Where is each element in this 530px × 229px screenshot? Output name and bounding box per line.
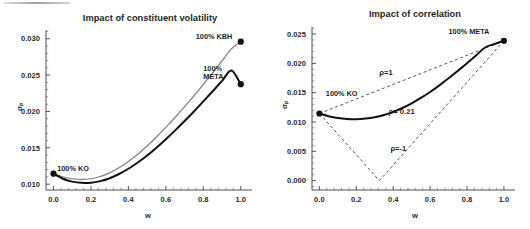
x-tick-label: 0.8 <box>462 195 473 204</box>
chart-title-right: Impact of correlation <box>369 9 461 19</box>
y-tick-label: 0.025 <box>21 71 41 80</box>
y-tick-label: 0.015 <box>21 144 41 153</box>
chart-panel-correlation: Impact of correlation 0.0000.0050.0100.0… <box>265 0 530 229</box>
y-tick-label: 0.005 <box>287 147 307 156</box>
chart-panel-constituent-volatility: Impact of constituent volatility 0.0100.… <box>0 0 265 229</box>
x-tick-label: 0.6 <box>161 195 172 204</box>
annotation-label: ρ=1 <box>379 68 393 77</box>
x-tick-label: 0.6 <box>425 195 436 204</box>
x-tick-label: 0.2 <box>351 195 362 204</box>
y-tick-label: 0.015 <box>287 88 307 97</box>
figure-container: Impact of constituent volatility 0.0100.… <box>0 0 530 229</box>
endpoint-marker <box>50 171 56 177</box>
y-tick-label: 0.030 <box>21 34 40 43</box>
endpoint-marker <box>238 39 244 45</box>
chart-svg-left: Impact of constituent volatility 0.0100.… <box>0 0 265 229</box>
x-tick-label: 1.0 <box>499 195 510 204</box>
endpoint-marker <box>501 38 507 44</box>
endpoint-marker <box>238 81 244 87</box>
x-tick-label: 0.4 <box>123 195 134 204</box>
annotation-label: META <box>203 72 224 81</box>
x-tick-labels-right: 0.00.20.40.60.81.0 <box>314 195 509 204</box>
y-tick-label: 0.010 <box>287 118 306 127</box>
chart-title-left: Impact of constituent volatility <box>83 13 218 23</box>
x-tick-label: 0.0 <box>314 195 325 204</box>
x-tick-label: 0.0 <box>48 195 59 204</box>
annotation-label: 100% KO <box>326 89 358 98</box>
x-tick-label: 0.2 <box>86 195 97 204</box>
y-tick-label: 0.020 <box>287 59 306 68</box>
chart-svg-right: Impact of correlation 0.0000.0050.0100.0… <box>265 0 530 229</box>
annotation-label: 100% KBH <box>196 32 233 41</box>
annotation-label: ρ= 0.21 <box>389 107 416 116</box>
x-tick-label: 1.0 <box>235 195 246 204</box>
data-series-ko-kbh-frontier <box>53 42 240 180</box>
x-axis-label-right: w <box>411 211 418 220</box>
y-axis-label-left: σₚ <box>15 102 24 111</box>
x-tick-label: 0.4 <box>388 195 399 204</box>
annotation-label: 100% META <box>449 27 491 36</box>
annotation-label: 100% KO <box>57 164 89 173</box>
y-tick-label: 0.000 <box>287 176 306 185</box>
x-tick-labels-left: 0.00.20.40.60.81.0 <box>48 195 246 204</box>
y-tick-labels-right: 0.0000.0050.0100.0150.0200.025 <box>287 30 307 186</box>
x-axis-label-left: w <box>144 211 151 220</box>
y-tick-label: 0.025 <box>287 30 307 39</box>
annotation-label: ρ=-1 <box>390 144 407 153</box>
endpoint-marker <box>316 110 322 116</box>
x-tick-label: 0.8 <box>198 195 209 204</box>
y-tick-label: 0.010 <box>21 180 40 189</box>
y-axis-label-right: σₚ <box>280 100 289 109</box>
annotations-right: 100% KO100% METAρ=1ρ= 0.21ρ=-1 <box>316 27 507 153</box>
